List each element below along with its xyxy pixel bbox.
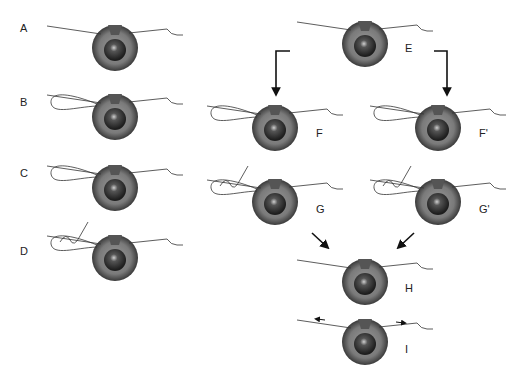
pupil <box>104 39 126 61</box>
eye-Fp <box>415 105 461 151</box>
panel-label-E: E <box>405 42 412 54</box>
panel-label-Gp: G' <box>479 203 490 215</box>
eye-B <box>92 94 138 140</box>
panel-label-G: G <box>316 203 325 215</box>
tension-arrow-right <box>396 322 404 323</box>
eye-C <box>92 165 138 211</box>
panel-label-C: C <box>20 167 28 179</box>
thread-loop <box>51 166 97 181</box>
pupil <box>104 179 126 201</box>
pupil <box>264 193 286 215</box>
arrow-G-to-H <box>312 233 326 246</box>
pupil <box>427 193 449 215</box>
thread-loop <box>374 106 420 121</box>
pupil <box>104 249 126 271</box>
arrow-E-to-F <box>276 51 290 92</box>
panel-label-I: I <box>405 343 408 355</box>
eye-A <box>92 25 138 71</box>
thread-loop <box>51 95 97 110</box>
pupil <box>427 119 449 141</box>
arrow-E-to-Fp <box>434 51 447 92</box>
pupil <box>264 119 286 141</box>
thread-loop <box>211 106 257 121</box>
arrow-Gp-to-H <box>400 233 414 246</box>
eye-D <box>92 235 138 281</box>
eye-H <box>342 259 388 305</box>
panel-label-A: A <box>20 22 27 34</box>
eye-I <box>342 319 388 365</box>
pupil <box>104 108 126 130</box>
eye-G <box>252 179 298 225</box>
panel-label-H: H <box>405 282 413 294</box>
panel-label-Fp: F' <box>479 127 488 139</box>
pupil <box>354 273 376 295</box>
eye-Gp <box>415 179 461 225</box>
panel-label-D: D <box>20 245 28 257</box>
eye-E <box>342 21 388 67</box>
eye-F <box>252 105 298 151</box>
tension-arrow-left <box>317 319 325 320</box>
panel-label-F: F <box>316 127 323 139</box>
panel-label-B: B <box>20 96 27 108</box>
diagram <box>0 0 511 381</box>
pupil <box>354 333 376 355</box>
pupil <box>354 35 376 57</box>
